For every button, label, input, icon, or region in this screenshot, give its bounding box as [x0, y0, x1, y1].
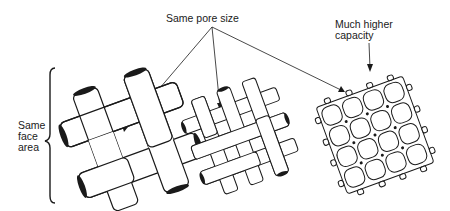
arrowhead-capacity	[367, 64, 373, 72]
fine-fiber-mesh	[310, 70, 441, 201]
pointer-line-fine	[212, 27, 343, 91]
face-area-label-line3: area	[18, 142, 48, 153]
same-pore-size-label: Same pore size	[166, 13, 239, 24]
capacity-label-line2: capacity	[335, 30, 415, 41]
much-higher-capacity-label: Much higher capacity	[335, 19, 415, 41]
coarse-weave-mesh	[48, 57, 215, 211]
same-face-area-label: Same face area	[18, 120, 48, 153]
